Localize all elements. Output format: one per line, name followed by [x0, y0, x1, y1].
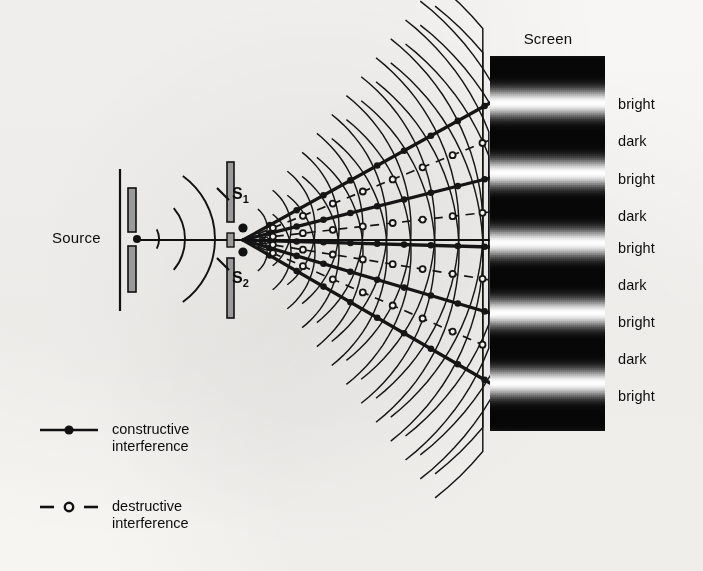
- legend-destructive-line2: interference: [112, 515, 189, 532]
- legend-constructive-filled-dot-icon: [64, 425, 73, 434]
- legend-constructive-text: constructive interference: [112, 421, 189, 455]
- legend-destructive-hollow-dot-icon: [65, 503, 73, 511]
- legend-constructive-line2: interference: [112, 438, 189, 455]
- legend-destructive-line1: destructive: [112, 498, 189, 515]
- legend-samples: [0, 0, 703, 571]
- legend-destructive-text: destructive interference: [112, 498, 189, 532]
- legend-constructive-line1: constructive: [112, 421, 189, 438]
- figure-canvas: Source Screen S1 S2 brightdarkbrightdark…: [0, 0, 703, 571]
